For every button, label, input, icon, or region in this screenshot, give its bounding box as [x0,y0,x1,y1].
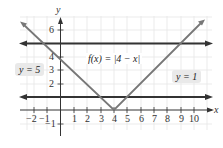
xtick: 2 [85,114,90,124]
xtick: 9 [179,114,184,124]
xtick: 1 [72,114,77,124]
line-y5 [19,41,213,47]
xtick: −1 [39,114,50,124]
line-y1 [19,94,213,100]
xtick: −2 [26,114,37,124]
xtick: 4 [112,114,117,124]
ytick-3: 3 [49,65,54,75]
y-axis-label: y [56,5,60,15]
ytick-6: 6 [49,25,54,35]
ytick-2: 2 [49,79,54,89]
y5-label: y = 5 [15,63,44,76]
xtick: 10 [189,114,199,124]
xtick: 3 [99,114,104,124]
x-axis-label: x [214,105,218,115]
ytick-4: 4 [49,52,54,62]
xtick: 8 [165,114,170,124]
xtick: 7 [152,114,157,124]
xtick: 6 [139,114,144,124]
xtick: 5 [125,114,130,124]
y1-label: y = 1 [172,70,201,83]
function-label: f(x) = |4 − x| [86,53,142,64]
